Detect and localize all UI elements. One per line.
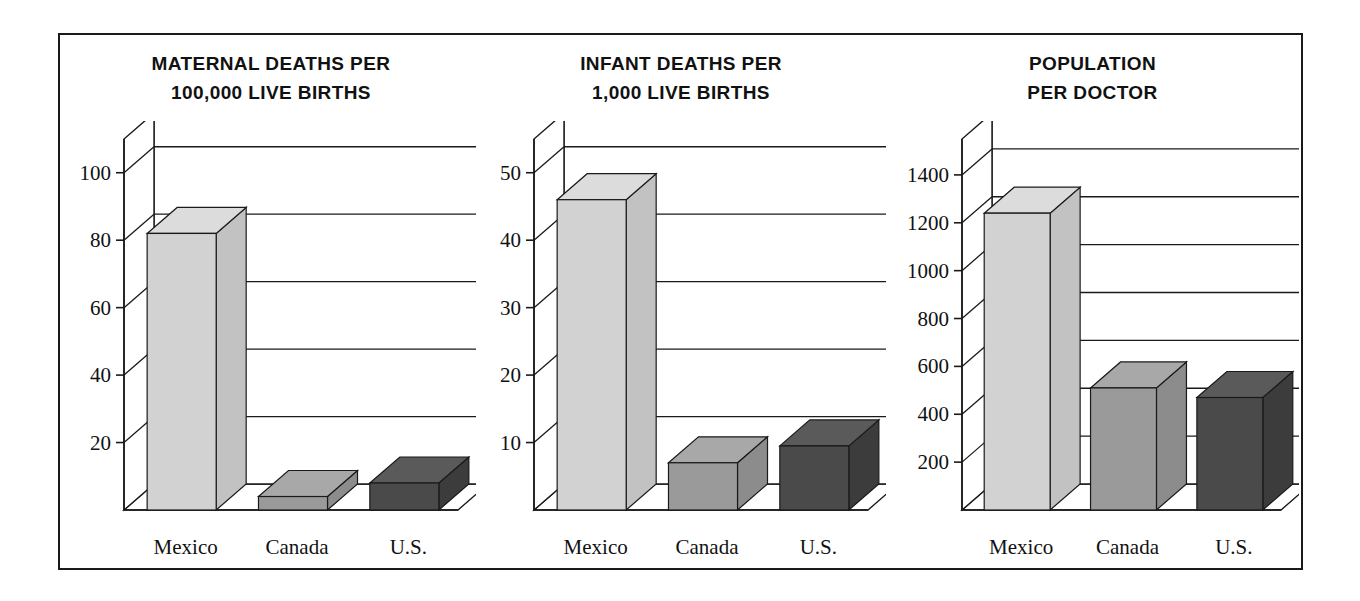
y-axis-tick-label: 40 xyxy=(90,363,111,387)
y-axis-tick-label: 400 xyxy=(918,402,950,426)
bar-us xyxy=(1197,372,1293,510)
chart-panel-population-per-doctor: POPULATION PER DOCTOR 200400600800100012… xyxy=(886,35,1299,572)
x-axis-category-label: U.S. xyxy=(390,535,427,559)
bar-front-face xyxy=(258,497,327,510)
chart-svg: 1020304050U.S.CanadaMexico xyxy=(476,121,886,572)
y-axis-tick-label: 1000 xyxy=(907,259,949,283)
panel-title-line-1: INFANT DEATHS PER xyxy=(476,49,886,78)
panel-title-line-1: POPULATION xyxy=(886,49,1299,78)
bar-us xyxy=(780,420,879,510)
x-axis-category-label: Mexico xyxy=(154,535,218,559)
x-axis-category-label: Canada xyxy=(676,535,740,559)
chart-svg: 20406080100U.S.CanadaMexico xyxy=(66,121,476,572)
plot-area: 1020304050U.S.CanadaMexico xyxy=(476,121,886,572)
bar-front-face xyxy=(984,213,1050,510)
y-axis-tick-label: 100 xyxy=(80,161,112,185)
chart-panel-maternal-deaths: MATERNAL DEATHS PER 100,000 LIVE BIRTHS … xyxy=(66,35,476,572)
y-axis-tick-label: 1400 xyxy=(907,163,949,187)
y-axis-tick-label: 600 xyxy=(918,354,950,378)
bar-mexico xyxy=(557,174,656,510)
y-axis-tick-label: 20 xyxy=(90,431,111,455)
y-axis-tick-label: 1200 xyxy=(907,211,949,235)
x-axis-category-label: Mexico xyxy=(564,535,628,559)
panel-title-line-2: 1,000 LIVE BIRTHS xyxy=(476,78,886,107)
figure-border: MATERNAL DEATHS PER 100,000 LIVE BIRTHS … xyxy=(58,33,1303,570)
chart-panel-infant-deaths: INFANT DEATHS PER 1,000 LIVE BIRTHS 1020… xyxy=(476,35,886,572)
bar-side-face xyxy=(1050,187,1080,510)
bar-front-face xyxy=(557,200,626,510)
y-axis-tick-label: 50 xyxy=(500,161,521,185)
y-axis-tick-label: 40 xyxy=(500,228,521,252)
bar-mexico xyxy=(147,207,246,510)
bar-front-face xyxy=(370,483,439,510)
y-axis-tick-label: 80 xyxy=(90,228,111,252)
bar-front-face xyxy=(668,463,737,510)
bar-canada xyxy=(1091,362,1187,510)
x-axis-category-label: U.S. xyxy=(1215,535,1252,559)
y-axis-tick-label: 800 xyxy=(918,307,950,331)
x-axis-category-label: U.S. xyxy=(800,535,837,559)
bar-front-face xyxy=(1197,398,1263,510)
panel-title-line-1: MATERNAL DEATHS PER xyxy=(66,49,476,78)
panel-title: INFANT DEATHS PER 1,000 LIVE BIRTHS xyxy=(476,49,886,108)
figure-canvas: MATERNAL DEATHS PER 100,000 LIVE BIRTHS … xyxy=(0,0,1360,601)
bar-front-face xyxy=(1091,388,1157,510)
bar-side-face xyxy=(626,174,656,510)
panel-title-line-2: 100,000 LIVE BIRTHS xyxy=(66,78,476,107)
bar-front-face xyxy=(780,446,849,510)
plot-area: 200400600800100012001400U.S.CanadaMexico xyxy=(886,121,1299,572)
x-axis-category-label: Canada xyxy=(1096,535,1160,559)
y-axis-tick-label: 30 xyxy=(500,296,521,320)
panel-title-line-2: PER DOCTOR xyxy=(886,78,1299,107)
y-axis-tick-label: 20 xyxy=(500,363,521,387)
x-axis-category-label: Canada xyxy=(266,535,330,559)
bar-mexico xyxy=(984,187,1080,510)
chart-svg: 200400600800100012001400U.S.CanadaMexico xyxy=(886,121,1299,572)
bar-side-face xyxy=(216,207,246,510)
panel-title: POPULATION PER DOCTOR xyxy=(886,49,1299,108)
y-axis-tick-label: 60 xyxy=(90,296,111,320)
bar-front-face xyxy=(147,233,216,510)
panel-title: MATERNAL DEATHS PER 100,000 LIVE BIRTHS xyxy=(66,49,476,108)
y-axis-tick-label: 10 xyxy=(500,431,521,455)
y-axis-tick-label: 200 xyxy=(918,450,950,474)
x-axis-category-label: Mexico xyxy=(989,535,1053,559)
plot-area: 20406080100U.S.CanadaMexico xyxy=(66,121,476,572)
